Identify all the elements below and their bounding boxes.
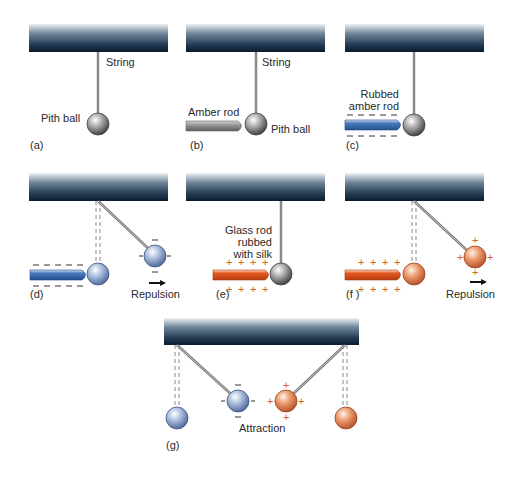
svg-text:+: +	[394, 283, 400, 295]
caption-f: (f )	[346, 288, 359, 300]
pith-ball-negative	[227, 390, 249, 412]
label-pith-ball-a: Pith ball	[41, 112, 80, 124]
label-glass-rod-line1: Glass rod	[200, 224, 272, 236]
support-bar	[186, 173, 325, 201]
svg-text:+: +	[238, 283, 244, 295]
label-glass-rod-line3: with silk	[200, 248, 272, 260]
pith-ball-positive	[464, 246, 486, 268]
pith-ball-neutral	[245, 113, 267, 135]
glass-rod	[345, 270, 401, 280]
panel-b	[186, 24, 325, 135]
label-pith-ball-b: Pith ball	[271, 123, 310, 135]
label-string-b: String	[262, 56, 291, 68]
repulsion-arrow-icon	[470, 279, 487, 285]
support-bar	[186, 24, 325, 52]
caption-g: (g)	[166, 439, 179, 451]
deflected-string-inner	[414, 201, 472, 255]
rubbed-amber-rod	[30, 270, 86, 280]
pith-ball-positive-original	[335, 407, 357, 429]
caption-d: (d)	[30, 288, 43, 300]
pith-ball-neutral	[270, 263, 292, 285]
support-bar	[29, 24, 168, 52]
panel-f: ++++ ++++ ++++	[345, 173, 493, 295]
svg-text:+: +	[487, 251, 493, 263]
caption-e: (e)	[216, 288, 229, 300]
panel-c	[345, 24, 484, 136]
pith-ball-neutral	[403, 114, 425, 136]
pith-ball-original-position	[403, 263, 425, 285]
repulsion-arrow-icon	[149, 280, 166, 286]
panel-d	[29, 173, 171, 286]
amber-rod	[186, 121, 242, 131]
pith-ball-positive	[275, 390, 297, 412]
svg-text:+: +	[394, 256, 400, 268]
svg-text:+: +	[382, 256, 388, 268]
deflected-string-right-inner	[292, 345, 345, 395]
svg-text:+: +	[358, 256, 364, 268]
pith-ball-negative-original	[166, 407, 188, 429]
caption-b: (b)	[190, 139, 203, 151]
svg-text:+: +	[250, 283, 256, 295]
svg-text:+: +	[262, 283, 268, 295]
label-repulsion-d: Repulsion	[131, 288, 180, 300]
panel-g: ++++	[164, 318, 359, 429]
support-bar	[345, 24, 484, 52]
svg-text:+: +	[457, 251, 463, 263]
pith-ball-original-position	[87, 263, 109, 285]
deflected-string-inner	[98, 201, 152, 252]
pith-ball-neutral	[87, 113, 109, 135]
deflected-string-left-inner	[177, 345, 232, 395]
caption-c: (c)	[346, 139, 359, 151]
svg-text:+: +	[267, 395, 273, 407]
support-bar	[29, 173, 168, 201]
svg-text:+: +	[283, 379, 289, 391]
label-attraction: Attraction	[239, 422, 285, 434]
svg-text:+: +	[298, 395, 304, 407]
support-bar	[164, 318, 359, 345]
svg-text:+: +	[382, 283, 388, 295]
label-rubbed-amber-rod-line2: amber rod	[340, 100, 399, 112]
label-string-a: String	[106, 56, 135, 68]
svg-text:+: +	[472, 234, 478, 246]
svg-text:+: +	[472, 266, 478, 278]
label-glass-rod-line2: rubbed	[200, 236, 272, 248]
label-amber-rod: Amber rod	[188, 106, 239, 118]
caption-a: (a)	[30, 139, 43, 151]
svg-text:+: +	[370, 256, 376, 268]
rubbed-amber-rod	[345, 120, 401, 130]
label-rubbed-amber-rod-line1: Rubbed	[340, 88, 399, 100]
label-repulsion-f: Repulsion	[446, 288, 495, 300]
svg-text:+: +	[370, 283, 376, 295]
pith-ball-negative	[144, 245, 166, 267]
glass-rod	[213, 270, 269, 280]
support-bar	[345, 173, 484, 201]
